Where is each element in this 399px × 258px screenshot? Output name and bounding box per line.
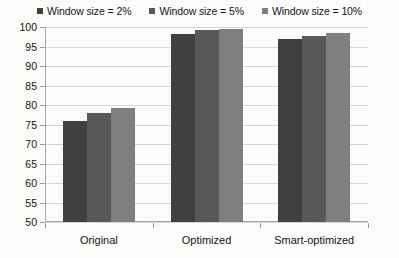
chart-legend: Window size = 2% Window size = 5% Window… — [0, 3, 399, 18]
y-tick-label: 55 — [25, 197, 37, 208]
y-tick-label: 95 — [25, 41, 37, 52]
y-tick-label: 85 — [25, 80, 37, 91]
legend-swatch-icon — [262, 8, 268, 14]
y-tick-label: 80 — [25, 100, 37, 111]
bar — [326, 33, 350, 222]
y-tick-label: 65 — [25, 158, 37, 169]
bar — [171, 34, 195, 222]
legend-item: Window size = 10% — [262, 5, 362, 17]
x-tick-label: Optimized — [153, 223, 261, 253]
y-tick-label: 60 — [25, 178, 37, 189]
legend-swatch-icon — [149, 8, 155, 14]
legend-item: Window size = 2% — [37, 5, 131, 17]
y-axis: 10095908580757065605550 — [0, 27, 45, 223]
legend-label: Window size = 5% — [159, 5, 243, 17]
x-tick-mark — [45, 223, 46, 228]
bars-layer — [45, 27, 368, 222]
bar-group — [153, 27, 261, 222]
x-tick-label: Original — [45, 223, 153, 253]
bar — [219, 29, 243, 222]
x-tick-mark — [153, 223, 154, 228]
y-tick-label: 70 — [25, 139, 37, 150]
legend-item: Window size = 5% — [149, 5, 243, 17]
y-tick-label: 90 — [25, 61, 37, 72]
y-tick-label: 100 — [19, 22, 37, 33]
bar — [87, 113, 111, 222]
x-tick-mark — [260, 223, 261, 228]
y-tick-label: 75 — [25, 119, 37, 130]
bar — [63, 121, 87, 222]
bar — [195, 30, 219, 222]
x-axis: OriginalOptimizedSmart-optimized — [45, 223, 368, 253]
bar-group — [260, 27, 368, 222]
x-tick-mark — [368, 223, 369, 228]
bar — [278, 39, 302, 222]
legend-label: Window size = 2% — [47, 5, 131, 17]
legend-swatch-icon — [37, 8, 43, 14]
x-tick-label: Smart-optimized — [260, 223, 368, 253]
bar-group — [45, 27, 153, 222]
legend-label: Window size = 10% — [272, 5, 362, 17]
y-tick-label: 50 — [25, 217, 37, 228]
bar — [302, 36, 326, 222]
bar — [111, 108, 135, 222]
